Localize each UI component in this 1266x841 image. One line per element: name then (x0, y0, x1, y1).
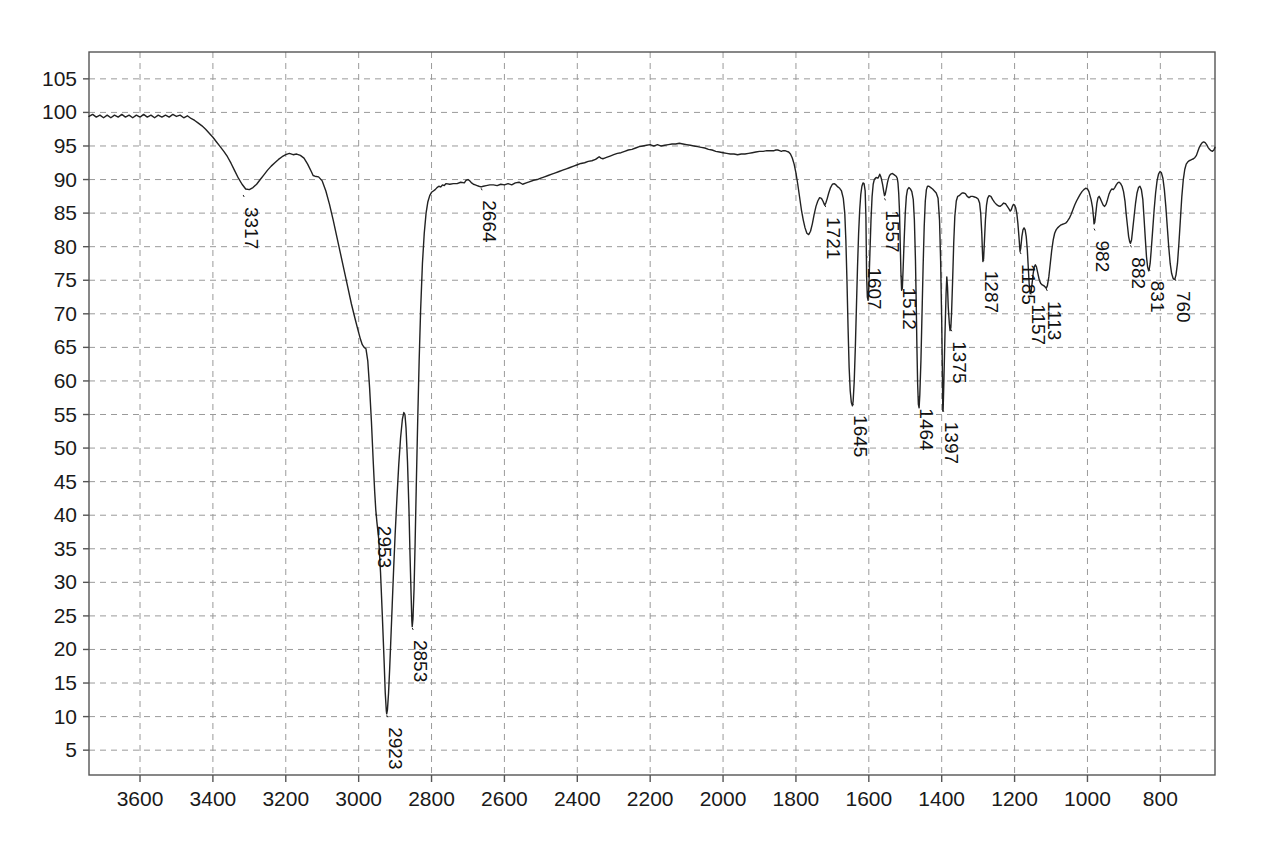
spectrum-chart: 5101520253035404550556065707580859095100… (0, 0, 1266, 841)
peak-label-text: 1607 (864, 267, 885, 309)
y-tick-label: 70 (54, 302, 77, 325)
x-tick-label: 2200 (627, 787, 674, 810)
ir-spectrum-figure: 5101520253035404550556065707580859095100… (0, 0, 1266, 841)
peak-label: 982 (1092, 229, 1113, 273)
peak-label-text: 982 (1092, 241, 1113, 273)
peak-label: 1113 (1044, 289, 1065, 340)
peak-label: 1375 (949, 329, 970, 383)
y-tick-label: 100 (42, 100, 77, 123)
y-tick-label: 5 (65, 738, 77, 761)
peak-label-text: 2953 (374, 526, 395, 568)
peak-label-text: 2853 (410, 640, 431, 682)
peak-label-text: 882 (1128, 257, 1149, 289)
x-tick-label: 3000 (335, 787, 382, 810)
y-tick-label: 45 (54, 470, 77, 493)
y-axis: 5101520253035404550556065707580859095100… (42, 67, 89, 761)
x-tick-label: 2000 (700, 787, 747, 810)
y-tick-label: 95 (54, 134, 77, 157)
y-tick-label: 20 (54, 637, 77, 660)
y-tick-label: 30 (54, 570, 77, 593)
peak-label-text: 1557 (882, 210, 903, 252)
x-tick-label: 1000 (1064, 787, 1111, 810)
x-tick-label: 1800 (773, 787, 820, 810)
x-tick-label: 1400 (918, 787, 965, 810)
y-tick-label: 50 (54, 436, 77, 459)
peak-label-text: 760 (1173, 291, 1194, 323)
y-tick-label: 15 (54, 671, 77, 694)
peak-label-text: 2664 (479, 200, 500, 243)
y-tick-label: 80 (54, 235, 77, 258)
peak-label-text: 1512 (899, 288, 920, 330)
y-tick-label: 65 (54, 335, 77, 358)
x-tick-label: 3600 (117, 787, 164, 810)
y-tick-label: 105 (42, 67, 77, 90)
y-tick-label: 40 (54, 503, 77, 526)
peak-label-text: 1113 (1044, 301, 1065, 340)
peak-label: 1645 (850, 403, 871, 457)
peak-label-text: 1397 (941, 422, 962, 464)
x-tick-label: 1600 (845, 787, 892, 810)
peak-label-text: 1645 (850, 415, 871, 457)
y-tick-label: 10 (54, 705, 77, 728)
x-axis: 3600340032003000280026002400220020001800… (117, 775, 1178, 810)
peak-label-text: 1185 (1018, 264, 1039, 305)
x-tick-label: 800 (1143, 787, 1178, 810)
x-tick-label: 1200 (991, 787, 1038, 810)
peak-label-text: 1464 (916, 408, 937, 451)
peak-label: 2853 (410, 628, 431, 682)
peak-label-text: 1287 (981, 271, 1002, 313)
x-tick-label: 2600 (481, 787, 528, 810)
x-tick-label: 3200 (262, 787, 309, 810)
peak-label-text: 1375 (949, 341, 970, 383)
y-tick-label: 75 (54, 268, 77, 291)
x-tick-label: 2400 (554, 787, 601, 810)
grid-lines (89, 52, 1215, 775)
y-tick-label: 35 (54, 537, 77, 560)
peak-label-text: 2923 (385, 727, 406, 769)
peak-label: 1557 (882, 198, 903, 252)
plot-frame (89, 52, 1215, 775)
peak-label: 1287 (981, 259, 1002, 313)
peak-labels: 3317295329232853266417211645160715571512… (241, 188, 1194, 769)
peak-label: 1607 (864, 255, 885, 309)
peak-label: 1397 (941, 410, 962, 464)
peak-label: 2664 (479, 188, 500, 243)
peak-label: 3317 (241, 195, 262, 249)
y-tick-label: 55 (54, 403, 77, 426)
peak-label-text: 1721 (823, 217, 844, 259)
y-tick-label: 25 (54, 604, 77, 627)
x-tick-label: 2800 (408, 787, 455, 810)
peak-label: 2923 (385, 715, 406, 769)
y-tick-label: 60 (54, 369, 77, 392)
peak-label-text: 3317 (241, 207, 262, 249)
peak-label: 760 (1173, 279, 1194, 323)
x-tick-label: 3400 (190, 787, 237, 810)
peak-label-text: 831 (1147, 281, 1168, 313)
y-tick-label: 90 (54, 168, 77, 191)
y-tick-label: 85 (54, 201, 77, 224)
